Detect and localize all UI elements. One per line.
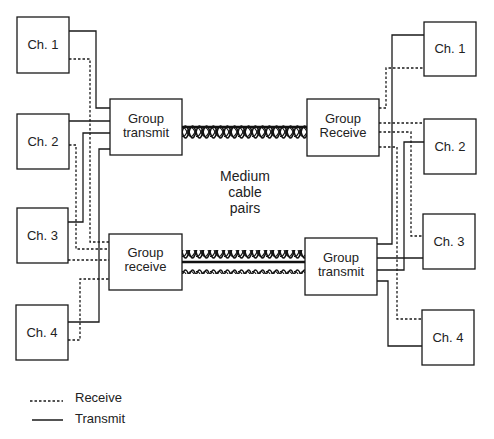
legend-transmit-label: Transmit — [75, 412, 125, 426]
left-group-transmit-line2: transmit — [110, 126, 182, 140]
cable-pair-top — [182, 115, 307, 139]
left-group-transmit-line1: Group — [110, 112, 182, 126]
right-group-receive-label: Group Receive — [307, 112, 379, 140]
left-receive-wires — [68, 59, 109, 340]
cable-pair-bottom — [182, 250, 305, 274]
right-ch3-text: Ch. 3 — [433, 235, 464, 249]
medium-line1: Medium — [205, 168, 285, 184]
right-ch1-label: Ch. 1 — [424, 22, 476, 76]
left-ch1-label: Ch. 1 — [17, 17, 69, 73]
left-ch2-text: Ch. 2 — [27, 135, 58, 149]
left-group-transmit-label: Group transmit — [110, 112, 182, 140]
right-group-transmit-line1: Group — [305, 251, 377, 265]
left-ch1-text: Ch. 1 — [27, 38, 58, 52]
right-group-transmit-line2: transmit — [305, 265, 377, 279]
left-ch3-label: Ch. 3 — [17, 208, 68, 263]
right-group-transmit-label: Group transmit — [305, 251, 377, 279]
left-group-receive-label: Group receive — [109, 246, 182, 274]
right-ch2-text: Ch. 2 — [434, 140, 465, 154]
medium-line3: pairs — [205, 200, 285, 216]
left-ch4-label: Ch. 4 — [16, 305, 68, 360]
medium-label: Medium cable pairs — [205, 168, 285, 216]
right-ch4-text: Ch. 4 — [432, 331, 463, 345]
right-ch1-text: Ch. 1 — [434, 42, 465, 56]
legend-receive-label: Receive — [75, 391, 122, 405]
right-ch2-label: Ch. 2 — [424, 119, 476, 174]
medium-line2: cable — [205, 184, 285, 200]
right-ch4-label: Ch. 4 — [422, 310, 474, 365]
right-ch3-label: Ch. 3 — [423, 214, 475, 269]
left-group-receive-line1: Group — [109, 246, 182, 260]
right-group-receive-line1: Group — [307, 112, 379, 126]
right-transmit-wires — [377, 35, 424, 346]
diagram-canvas — [0, 0, 494, 439]
left-group-receive-line2: receive — [109, 260, 182, 274]
left-ch3-text: Ch. 3 — [27, 229, 58, 243]
right-group-receive-line2: Receive — [307, 126, 379, 140]
left-ch2-label: Ch. 2 — [17, 114, 69, 169]
left-ch4-text: Ch. 4 — [26, 326, 57, 340]
